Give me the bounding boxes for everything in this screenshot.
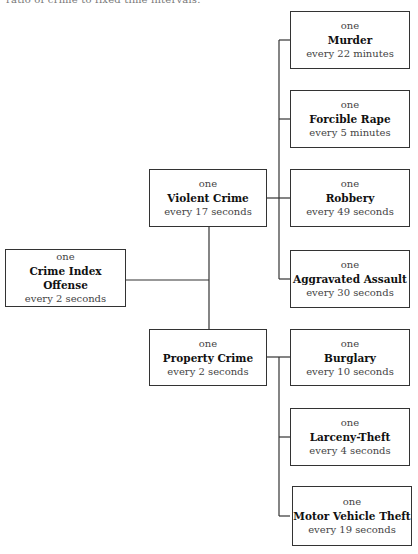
node-prefix: one — [343, 495, 361, 509]
node-title: Aggravated Assault — [293, 272, 407, 286]
node-prefix: one — [341, 98, 359, 112]
node-rate: every 22 minutes — [306, 47, 394, 61]
node-title: Burglary — [324, 351, 376, 365]
node-robbery: one Robbery every 49 seconds — [290, 169, 410, 227]
node-rate: every 19 seconds — [308, 523, 396, 537]
node-title: Robbery — [326, 191, 375, 205]
node-rate: every 5 minutes — [309, 126, 390, 140]
node-prefix: one — [56, 250, 74, 264]
node-crime-index-offense: one Crime Index Offense every 2 seconds — [5, 249, 126, 307]
node-prefix: one — [199, 177, 217, 191]
node-forcible-rape: one Forcible Rape every 5 minutes — [290, 90, 410, 148]
node-rate: every 4 seconds — [309, 444, 390, 458]
node-rate: every 49 seconds — [306, 205, 394, 219]
node-title: Forcible Rape — [309, 112, 390, 126]
node-rate: every 2 seconds — [167, 365, 248, 379]
node-title: Violent Crime — [167, 191, 248, 205]
node-title: Property Crime — [163, 351, 253, 365]
node-title: Crime Index Offense — [6, 264, 125, 292]
node-prefix: one — [341, 19, 359, 33]
node-prefix: one — [341, 258, 359, 272]
node-title: Larceny-Theft — [310, 430, 391, 444]
node-motor-vehicle-theft: one Motor Vehicle Theft every 19 seconds — [292, 486, 412, 546]
node-rate: every 10 seconds — [306, 365, 394, 379]
node-larceny-theft: one Larceny-Theft every 4 seconds — [290, 408, 410, 466]
node-rate: every 30 seconds — [306, 286, 394, 300]
node-title: Motor Vehicle Theft — [293, 509, 410, 523]
node-prefix: one — [199, 337, 217, 351]
node-prefix: one — [341, 416, 359, 430]
node-aggravated-assault: one Aggravated Assault every 30 seconds — [290, 250, 410, 308]
node-violent-crime: one Violent Crime every 17 seconds — [149, 169, 267, 227]
node-prefix: one — [341, 337, 359, 351]
node-murder: one Murder every 22 minutes — [290, 11, 410, 69]
node-burglary: one Burglary every 10 seconds — [290, 329, 410, 386]
node-prefix: one — [341, 177, 359, 191]
node-rate: every 2 seconds — [25, 292, 106, 306]
node-rate: every 17 seconds — [164, 205, 252, 219]
node-property-crime: one Property Crime every 2 seconds — [149, 329, 267, 386]
node-title: Murder — [328, 33, 372, 47]
